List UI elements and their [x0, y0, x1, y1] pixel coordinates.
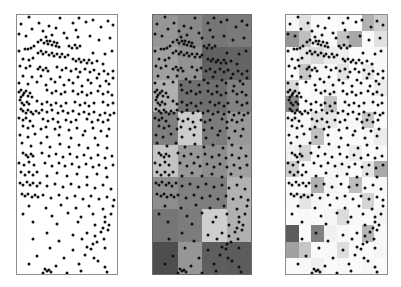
data-point [39, 65, 42, 68]
data-point [40, 39, 43, 42]
data-point [87, 146, 90, 149]
data-point [72, 234, 75, 237]
data-point [21, 75, 24, 78]
data-point [28, 64, 31, 67]
data-point [64, 102, 67, 105]
data-point [18, 90, 21, 93]
quadrat-cell [337, 31, 350, 47]
data-point [27, 127, 30, 130]
data-point [45, 125, 48, 128]
data-point [36, 40, 39, 43]
data-point [22, 109, 25, 112]
quadrat-cell [374, 96, 387, 112]
quadrat-cell [299, 193, 312, 209]
data-point [58, 75, 61, 78]
data-point [35, 184, 38, 187]
data-point [93, 102, 96, 105]
data-point [28, 91, 31, 94]
data-point [97, 90, 100, 93]
data-point [25, 181, 28, 184]
data-point [30, 144, 33, 147]
data-point [97, 154, 100, 157]
data-point [101, 207, 104, 210]
data-point [85, 93, 88, 96]
data-point [112, 77, 115, 80]
data-point [39, 182, 42, 185]
quadrat-cell [362, 242, 375, 258]
data-point [108, 224, 111, 227]
data-point [92, 51, 95, 54]
data-point [41, 152, 44, 155]
data-point [55, 101, 58, 104]
quadrat-cell [337, 225, 350, 241]
data-point [112, 198, 115, 201]
data-point [64, 91, 67, 94]
data-point [24, 173, 27, 176]
quadrat-cell [153, 177, 178, 209]
data-point [64, 118, 67, 121]
data-point [61, 53, 64, 56]
data-point [22, 57, 25, 60]
data-point [106, 195, 109, 198]
data-point [78, 103, 81, 106]
data-point [49, 77, 52, 80]
data-point [112, 205, 115, 208]
quadrat-cell [374, 31, 387, 47]
data-point [29, 152, 32, 155]
data-point [46, 111, 49, 114]
data-point [86, 231, 89, 234]
data-point [86, 117, 89, 120]
quadrat-cell [202, 47, 227, 79]
quadrat-cell [202, 15, 227, 47]
data-point [26, 135, 29, 138]
data-point [46, 136, 49, 139]
data-point [106, 271, 109, 274]
quadrat-cell [299, 128, 312, 144]
data-point [66, 271, 69, 274]
data-point [26, 48, 29, 51]
quadrat-cell [374, 242, 387, 258]
data-point [34, 109, 37, 112]
data-point [66, 197, 69, 200]
quadrat-cell [337, 177, 350, 193]
data-point [107, 73, 110, 76]
data-point [93, 257, 96, 260]
quadrat-cell [349, 258, 362, 274]
data-point [101, 63, 104, 66]
data-point [111, 102, 114, 105]
data-point [82, 110, 85, 113]
data-point [108, 82, 111, 85]
quadrat-cell [374, 47, 387, 63]
data-point [90, 91, 93, 94]
data-point [105, 166, 108, 169]
quadrat-cell [324, 47, 337, 63]
data-point [96, 173, 99, 176]
data-point [23, 103, 26, 106]
data-point [29, 119, 32, 122]
quadrat-cell [349, 145, 362, 161]
data-point [56, 111, 59, 114]
quadrat-cell [299, 112, 312, 128]
quadrat-cell [299, 177, 312, 193]
data-point [50, 270, 53, 273]
quadrat-cell [362, 128, 375, 144]
data-point [65, 37, 68, 40]
quadrat-cell [324, 128, 337, 144]
data-point [58, 142, 61, 145]
data-point [106, 147, 109, 150]
data-point [27, 193, 30, 196]
data-point [22, 212, 25, 215]
data-point [40, 109, 43, 112]
data-point [94, 234, 97, 237]
data-point [50, 92, 53, 95]
data-point [56, 65, 59, 68]
data-point [37, 21, 40, 24]
data-point [97, 72, 100, 75]
quadrat-cell [337, 128, 350, 144]
data-point [42, 30, 45, 33]
quadrat-cell [324, 258, 337, 274]
quadrat-cell [227, 242, 252, 274]
data-point [83, 153, 86, 156]
quadrat-cell [374, 258, 387, 274]
data-point [90, 248, 93, 251]
